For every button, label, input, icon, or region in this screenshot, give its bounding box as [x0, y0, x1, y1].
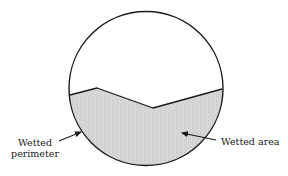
- wetted-perimeter-label-line2: perimeter: [10, 148, 60, 159]
- wetted-area-fill: [60, 86, 232, 176]
- wetted-area-label: Wetted area: [221, 136, 279, 147]
- wetted-perimeter-arrow: [59, 132, 81, 141]
- wetted-perimeter-label-line1: Wetted: [10, 137, 60, 148]
- wetted-perimeter-label: Wetted perimeter: [10, 137, 60, 159]
